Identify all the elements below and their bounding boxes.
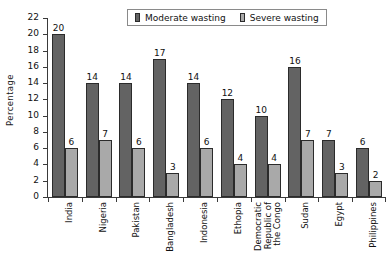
bar-group: 73	[318, 18, 352, 197]
x-axis-label-cell: Bangladesh	[149, 202, 183, 265]
bar[interactable]	[86, 83, 99, 197]
bar[interactable]	[335, 173, 348, 197]
x-axis-label-cell: India	[48, 202, 82, 265]
bar-column: 6	[65, 18, 78, 197]
x-axis-label-line: Pakistan	[131, 202, 141, 238]
bar-value-label: 2	[363, 170, 389, 180]
y-axis-tick-label: 18	[28, 45, 39, 56]
x-axis-label: Nigeria	[99, 202, 109, 232]
bar-group: 124	[217, 18, 251, 197]
bar-column: 14	[187, 18, 200, 197]
bar-column: 6	[200, 18, 213, 197]
bar-value-label: 6	[194, 137, 220, 147]
bar-value-label: 4	[261, 153, 287, 163]
y-axis-tick-label: 16	[28, 61, 39, 72]
x-axis-label: DemocraticRepublic ofthe Congo	[253, 202, 282, 251]
bar-column: 4	[234, 18, 247, 197]
bar[interactable]	[153, 59, 166, 197]
bar[interactable]	[132, 148, 145, 197]
bar-column: 7	[99, 18, 112, 197]
x-axis-label-line: the Congo	[272, 202, 282, 251]
bar-column: 6	[132, 18, 145, 197]
bar[interactable]	[221, 99, 234, 197]
bar-column: 3	[166, 18, 179, 197]
x-axis-label-line: Sudan	[300, 202, 310, 229]
y-axis-tick-label: 0	[33, 191, 39, 202]
legend-swatch-icon	[135, 13, 140, 22]
x-axis-label-cell: Egypt	[318, 202, 352, 265]
bar-group: 146	[116, 18, 150, 197]
y-axis-tick-label: 2	[33, 175, 39, 186]
bar-column: 3	[335, 18, 348, 197]
bar[interactable]	[234, 164, 247, 197]
x-axis-label: Pakistan	[132, 202, 142, 238]
bar-value-label: 7	[92, 129, 118, 139]
y-axis-ticks: 2220181614121086420	[0, 18, 47, 197]
legend-item[interactable]: Moderate wasting	[135, 13, 226, 23]
x-axis-label: Sudan	[301, 202, 311, 229]
bar-column: 12	[221, 18, 234, 197]
chart-legend: Moderate wastingSevere wasting	[127, 9, 327, 26]
bar-value-label: 4	[227, 153, 253, 163]
x-axis-label-line: Philippines	[368, 202, 378, 248]
x-axis-label: India	[65, 202, 75, 223]
bar-chart: Percentage 2220181614121086420 206147146…	[0, 0, 391, 265]
x-axis-label-line: Democratic	[252, 202, 262, 251]
bar-column: 20	[52, 18, 65, 197]
x-axis-labels: IndiaNigeriaPakistanBangladeshIndonesiaE…	[48, 202, 386, 265]
bar[interactable]	[65, 148, 78, 197]
legend-label: Severe wasting	[250, 13, 319, 23]
x-axis-label: Indonesia	[200, 202, 210, 243]
x-axis-label: Philippines	[369, 202, 379, 248]
bar[interactable]	[301, 140, 314, 197]
bar[interactable]	[99, 140, 112, 197]
bar[interactable]	[52, 34, 65, 197]
x-axis-label-line: Bangladesh	[165, 202, 175, 252]
bar-group: 62	[352, 18, 386, 197]
bar[interactable]	[166, 173, 179, 197]
legend-item[interactable]: Severe wasting	[240, 13, 319, 23]
x-axis-label-line: Ethopia	[233, 202, 243, 234]
x-axis-label-line: Indonesia	[199, 202, 209, 243]
bar-group: 206	[48, 18, 82, 197]
y-axis-tick-label: 22	[28, 12, 39, 23]
bar-group: 147	[82, 18, 116, 197]
x-axis-label-cell: Ethopia	[217, 202, 251, 265]
y-axis-tick-label: 8	[33, 126, 39, 137]
bar-column: 14	[86, 18, 99, 197]
legend-label: Moderate wasting	[145, 13, 226, 23]
y-axis-tick-label: 14	[28, 77, 39, 88]
x-axis-label-cell: Indonesia	[183, 202, 217, 265]
x-axis-label: Bangladesh	[166, 202, 176, 252]
bar-value-label: 3	[329, 162, 355, 172]
bar-column: 10	[255, 18, 268, 197]
x-axis-label-line: Nigeria	[98, 202, 108, 232]
x-axis-label-cell: DemocraticRepublic ofthe Congo	[251, 202, 285, 265]
x-axis-label-cell: Nigeria	[82, 202, 116, 265]
bar-value-label: 3	[160, 162, 186, 172]
bar-column: 4	[268, 18, 281, 197]
bar-group: 104	[251, 18, 285, 197]
bar-column: 7	[301, 18, 314, 197]
bar-column: 14	[119, 18, 132, 197]
x-axis-label-line: Egypt	[334, 202, 344, 227]
y-axis-tick-label: 12	[28, 93, 39, 104]
y-axis-tick-label: 20	[28, 28, 39, 39]
x-axis-label: Ethopia	[234, 202, 244, 234]
bar-value-label: 6	[58, 137, 84, 147]
bar[interactable]	[369, 181, 382, 197]
x-axis-label: Egypt	[335, 202, 345, 227]
bar-group: 173	[149, 18, 183, 197]
bar-group: 146	[183, 18, 217, 197]
x-axis-label-cell: Sudan	[285, 202, 319, 265]
bar-group: 167	[285, 18, 319, 197]
y-axis-tick-label: 4	[33, 158, 39, 169]
x-axis-label-cell: Philippines	[352, 202, 386, 265]
bar-column: 2	[369, 18, 382, 197]
bar-column: 16	[288, 18, 301, 197]
bar[interactable]	[200, 148, 213, 197]
y-axis-tick-label: 10	[28, 110, 39, 121]
bar[interactable]	[268, 164, 281, 197]
y-axis-tick-label: 6	[33, 142, 39, 153]
legend-swatch-icon	[240, 13, 245, 22]
